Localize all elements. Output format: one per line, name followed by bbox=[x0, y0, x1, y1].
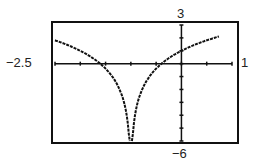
curve-left bbox=[55, 40, 130, 141]
curve-right bbox=[132, 37, 219, 142]
plot bbox=[0, 0, 257, 164]
axes bbox=[55, 25, 232, 141]
